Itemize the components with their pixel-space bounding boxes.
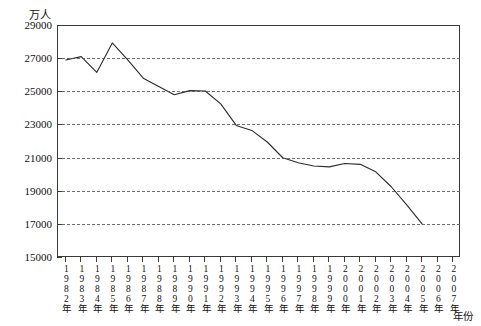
y-tick-mark: [57, 91, 62, 92]
x-tick-mark: [282, 257, 283, 262]
y-tick-mark: [57, 257, 62, 258]
x-tick-label: 2003年: [385, 264, 396, 314]
x-tick-mark: [421, 257, 422, 262]
y-tick-label: 17000: [4, 218, 52, 229]
series-path-primary: [66, 43, 423, 224]
x-tick-mark: [297, 257, 298, 262]
x-tick-mark: [96, 257, 97, 262]
y-tick-mark: [57, 25, 62, 26]
x-tick-label: 1982年: [59, 264, 70, 314]
x-tick-label: 2000年: [338, 264, 349, 314]
x-tick-mark: [266, 257, 267, 262]
x-tick-mark: [65, 257, 66, 262]
x-tick-label: 1992年: [214, 264, 225, 314]
x-tick-mark: [220, 257, 221, 262]
x-tick-label: 2007年: [447, 264, 458, 314]
gridline-25000: [57, 91, 460, 92]
x-tick-label: 1987年: [137, 264, 148, 314]
x-tick-label: 2001年: [354, 264, 365, 314]
x-tick-mark: [251, 257, 252, 262]
x-axis-caption: 年份: [453, 308, 473, 323]
gridline-19000: [57, 191, 460, 192]
x-tick-mark: [328, 257, 329, 262]
x-tick-mark: [189, 257, 190, 262]
x-tick-label: 1989年: [168, 264, 179, 314]
y-tick-mark: [57, 191, 62, 192]
x-tick-label: 1999年: [323, 264, 334, 314]
plot-area: [57, 25, 460, 257]
y-tick-label: 21000: [4, 152, 52, 163]
x-tick-mark: [437, 257, 438, 262]
y-tick-mark: [57, 158, 62, 159]
x-tick-label: 2002年: [369, 264, 380, 314]
x-tick-mark: [344, 257, 345, 262]
x-tick-label: 1990年: [183, 264, 194, 314]
y-tick-label: 25000: [4, 86, 52, 97]
x-tick-mark: [313, 257, 314, 262]
y-tick-label: 15000: [4, 252, 52, 263]
x-tick-label: 2006年: [431, 264, 442, 314]
x-tick-label: 1984年: [90, 264, 101, 314]
x-tick-label: 1997年: [292, 264, 303, 314]
x-tick-label: 1994年: [245, 264, 256, 314]
x-tick-mark: [142, 257, 143, 262]
y-tick-label: 29000: [4, 20, 52, 31]
x-tick-mark: [173, 257, 174, 262]
x-tick-label: 2004年: [400, 264, 411, 314]
gridline-23000: [57, 124, 460, 125]
x-tick-label: 1986年: [121, 264, 132, 314]
x-tick-label: 1991年: [199, 264, 210, 314]
y-tick-label: 19000: [4, 185, 52, 196]
x-tick-label: 1995年: [261, 264, 272, 314]
x-tick-mark: [406, 257, 407, 262]
x-tick-label: 2005年: [416, 264, 427, 314]
y-tick-mark: [57, 224, 62, 225]
y-tick-mark: [57, 58, 62, 59]
x-tick-mark: [80, 257, 81, 262]
x-tick-mark: [158, 257, 159, 262]
gridline-21000: [57, 158, 460, 159]
x-tick-mark: [375, 257, 376, 262]
x-tick-label: 1983年: [75, 264, 86, 314]
x-tick-label: 1985年: [106, 264, 117, 314]
y-tick-label: 27000: [4, 53, 52, 64]
x-tick-mark: [359, 257, 360, 262]
gridline-27000: [57, 58, 460, 59]
x-tick-mark: [127, 257, 128, 262]
x-tick-mark: [452, 257, 453, 262]
x-tick-label: 1988年: [152, 264, 163, 314]
line-chart: 万人 2900027000250002300021000190001700015…: [0, 0, 481, 326]
x-tick-mark: [204, 257, 205, 262]
x-tick-mark: [235, 257, 236, 262]
y-tick-label: 23000: [4, 119, 52, 130]
gridline-17000: [57, 224, 460, 225]
x-tick-label: 1998年: [307, 264, 318, 314]
x-tick-label: 1993年: [230, 264, 241, 314]
x-tick-label: 1996年: [276, 264, 287, 314]
x-tick-mark: [390, 257, 391, 262]
y-tick-mark: [57, 124, 62, 125]
x-tick-mark: [111, 257, 112, 262]
